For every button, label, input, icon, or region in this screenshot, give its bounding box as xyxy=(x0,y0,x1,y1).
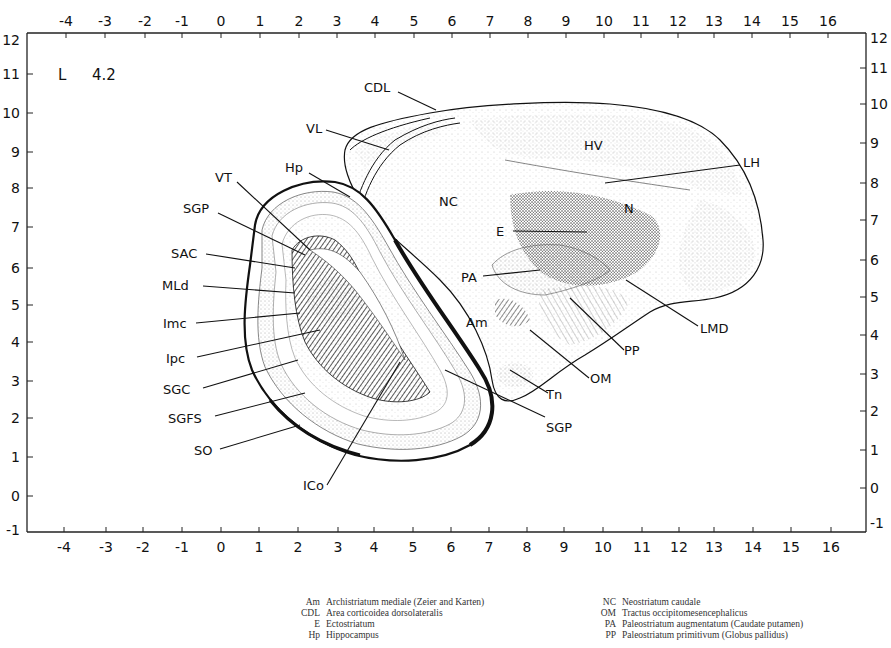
label-am: Am xyxy=(466,315,488,330)
x-tick-label: -1 xyxy=(175,539,189,555)
label-sgfs: SGFS xyxy=(168,411,202,426)
x-tick-label: 6 xyxy=(448,13,457,29)
x-tick-label: -2 xyxy=(136,539,150,555)
x-tick-label: -3 xyxy=(99,539,113,555)
label-om: OM xyxy=(590,371,611,386)
legend-row: CDLArea corticoidea dorsolateralis xyxy=(284,608,484,619)
x-tick-label: 0 xyxy=(217,13,226,29)
legend-text: Paleostriatum augmentatum (Caudate putam… xyxy=(622,619,803,630)
x-tick-label: 3 xyxy=(334,539,343,555)
x-tick-label: 0 xyxy=(217,539,226,555)
legend-row: PPPaleostriatum primitivum (Globus palli… xyxy=(580,630,803,641)
label-pp: PP xyxy=(624,343,640,358)
y-tick-label: 8 xyxy=(870,175,879,191)
label-pa: PA xyxy=(461,270,477,285)
y-tick-label: 2 xyxy=(11,410,20,426)
brain-atlas-figure: -4 -3 -2 -1 0 1 2 3 4 5 6 7 8 9 10 11 12… xyxy=(0,0,891,648)
label-sgp-bottom: SGP xyxy=(546,420,572,435)
y-tick-label: 8 xyxy=(11,180,20,196)
y-tick-label: 9 xyxy=(11,144,20,160)
label-nc: NC xyxy=(439,194,458,209)
abbreviation-legend-left: AmArchistriatum mediale (Zeier and Karte… xyxy=(284,597,484,641)
y-axis-left: 12 11 10 9 8 7 6 5 4 3 2 1 0 -1 xyxy=(2,32,33,538)
label-n: N xyxy=(624,201,634,216)
label-sgp-top: SGP xyxy=(183,201,209,216)
x-tick-label: 11 xyxy=(632,13,650,29)
x-tick-label: 10 xyxy=(594,539,612,555)
y-tick-label: 7 xyxy=(870,212,879,228)
x-tick-label: 8 xyxy=(524,13,533,29)
x-tick-label: -4 xyxy=(57,539,71,555)
legend-text: Paleostriatum primitivum (Globus pallidu… xyxy=(622,630,788,641)
y-tick-label: 12 xyxy=(870,30,888,46)
legend-text: Hippocampus xyxy=(326,630,379,641)
label-vt: VT xyxy=(215,170,232,185)
x-tick-label: 15 xyxy=(782,539,800,555)
x-axis-bottom: -4 -3 -2 -1 0 1 2 3 4 5 6 7 8 9 10 11 12… xyxy=(57,527,840,555)
label-cdl: CDL xyxy=(364,80,391,95)
x-tick-label: -3 xyxy=(98,13,112,29)
y-tick-label: 4 xyxy=(870,327,879,343)
x-tick-label: 14 xyxy=(743,13,761,29)
legend-text: Tractus occipitomesencephalicus xyxy=(622,608,748,619)
x-tick-label: 6 xyxy=(447,539,456,555)
legend-row: HpHippocampus xyxy=(284,630,484,641)
label-ico: ICo xyxy=(303,478,324,493)
label-mld: MLd xyxy=(162,278,189,293)
x-tick-label: 4 xyxy=(371,13,380,29)
x-tick-label: 8 xyxy=(523,539,532,555)
label-so: SO xyxy=(194,443,212,458)
x-tick-label: 14 xyxy=(744,539,762,555)
label-e: E xyxy=(496,224,504,239)
label-sgc: SGC xyxy=(163,382,190,397)
label-imc: Imc xyxy=(163,316,187,331)
x-tick-label: 9 xyxy=(562,13,571,29)
legend-abbr: PP xyxy=(580,630,622,641)
y-tick-label: -1 xyxy=(6,522,20,538)
y-tick-label: 7 xyxy=(11,219,20,235)
legend-text: Ectostriatum xyxy=(326,619,375,630)
x-tick-label: 2 xyxy=(294,539,303,555)
section-number: 4.2 xyxy=(92,66,116,84)
label-hp: Hp xyxy=(285,160,303,175)
legend-row: EEctostriatum xyxy=(284,619,484,630)
label-sac: SAC xyxy=(171,246,197,261)
y-tick-label: 9 xyxy=(870,135,879,151)
x-tick-label: 5 xyxy=(410,13,419,29)
y-tick-label: 3 xyxy=(870,366,879,382)
legend-text: Archistriatum mediale (Zeier and Karten) xyxy=(326,597,484,608)
label-vl: VL xyxy=(306,121,323,136)
x-tick-label: 12 xyxy=(670,539,688,555)
y-tick-label: 4 xyxy=(11,334,20,350)
legend-abbr: Am xyxy=(284,597,326,608)
x-tick-label: 16 xyxy=(822,539,840,555)
y-tick-label: 5 xyxy=(11,297,20,313)
x-tick-label: 2 xyxy=(295,13,304,29)
legend-abbr: PA xyxy=(580,619,622,630)
y-tick-label: 5 xyxy=(870,289,879,305)
y-tick-label: -1 xyxy=(870,515,884,531)
legend-row: OMTractus occipitomesencephalicus xyxy=(580,608,803,619)
x-tick-label: -1 xyxy=(175,13,189,29)
y-tick-label: 12 xyxy=(2,32,20,48)
y-tick-label: 2 xyxy=(870,403,879,419)
y-tick-label: 10 xyxy=(870,96,888,112)
y-tick-label: 6 xyxy=(870,252,879,268)
x-tick-label: 13 xyxy=(705,539,723,555)
x-tick-label: 15 xyxy=(781,13,799,29)
x-tick-label: 9 xyxy=(560,539,569,555)
y-tick-label: 3 xyxy=(11,373,20,389)
legend-abbr: E xyxy=(284,619,326,630)
label-lh: LH xyxy=(743,155,760,170)
legend-row: NCNeostriatum caudale xyxy=(580,597,803,608)
section-letter: L xyxy=(58,66,67,84)
x-tick-label: 4 xyxy=(370,539,379,555)
x-axis-top: -4 -3 -2 -1 0 1 2 3 4 5 6 7 8 9 10 11 12… xyxy=(59,13,837,38)
y-tick-label: 11 xyxy=(870,60,888,76)
legend-text: Area corticoidea dorsolateralis xyxy=(326,608,443,619)
legend-text: Neostriatum caudale xyxy=(622,597,700,608)
legend-abbr: NC xyxy=(580,597,622,608)
x-tick-label: 1 xyxy=(256,13,265,29)
legend-row: AmArchistriatum mediale (Zeier and Karte… xyxy=(284,597,484,608)
legend-abbr: OM xyxy=(580,608,622,619)
